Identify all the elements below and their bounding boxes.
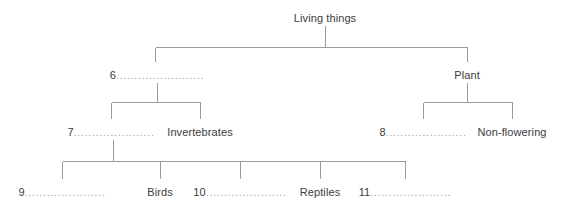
node-blank-8[interactable]: 8...................... <box>379 126 466 139</box>
node-blank-10-leader: ...................... <box>206 187 287 198</box>
node-blank-6-leader: ........................ <box>116 70 204 81</box>
node-birds: Birds <box>147 186 173 199</box>
node-blank-6[interactable]: 6........................ <box>110 69 205 82</box>
classification-tree-diagram: Living things 6........................ … <box>0 0 581 208</box>
node-non-flowering-label: Non-flowering <box>477 126 546 138</box>
node-reptiles-label: Reptiles <box>300 186 341 198</box>
node-blank-10[interactable]: 10...................... <box>193 186 286 199</box>
node-non-flowering: Non-flowering <box>477 126 546 139</box>
node-birds-label: Birds <box>147 186 173 198</box>
node-blank-11[interactable]: 11...................... <box>359 186 452 199</box>
node-blank-9-leader: ...................... <box>25 187 106 198</box>
node-plant-label: Plant <box>454 69 480 81</box>
node-invertebrates: Invertebrates <box>167 126 233 139</box>
node-blank-7[interactable]: 7...................... <box>67 126 154 139</box>
node-blank-11-number: 11 <box>359 186 371 198</box>
node-reptiles: Reptiles <box>300 186 341 199</box>
node-plant: Plant <box>454 69 480 82</box>
node-blank-7-leader: ...................... <box>74 127 155 138</box>
node-blank-9[interactable]: 9...................... <box>18 186 105 199</box>
node-living-things-label: Living things <box>294 12 356 24</box>
node-invertebrates-label: Invertebrates <box>167 126 233 138</box>
node-blank-11-leader: ...................... <box>370 187 451 198</box>
node-blank-8-leader: ...................... <box>386 127 467 138</box>
node-living-things: Living things <box>294 12 356 25</box>
node-blank-10-number: 10 <box>193 186 205 198</box>
tree-connector-lines <box>0 0 581 208</box>
